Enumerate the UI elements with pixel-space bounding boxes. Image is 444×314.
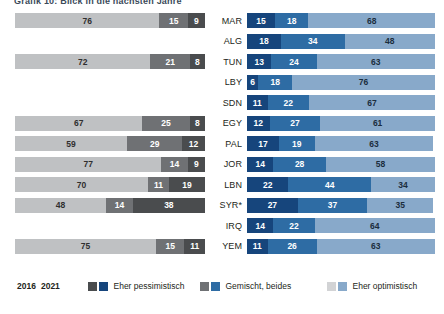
segment-pessimistisch-2016: 12	[182, 136, 205, 151]
page-title: Grafik 10: Blick in die nächsten Jahre	[14, 0, 254, 6]
segment-gemischt-2021: 26	[268, 239, 317, 254]
segment-pessimistisch-2021: 15	[247, 13, 275, 28]
segment-optimistisch-2021: 48	[345, 34, 435, 49]
bar-2021[interactable]: 142264	[247, 218, 435, 233]
segment-optimistisch-2016: 67	[15, 116, 142, 131]
bar-2016[interactable]: 751511	[15, 239, 205, 254]
segment-optimistisch-2021: 35	[367, 198, 433, 213]
bar-2016[interactable]: 72218	[15, 54, 205, 69]
chart-row: 76159MAR151868	[0, 13, 444, 34]
bar-2021[interactable]: 61876	[247, 75, 435, 90]
segment-optimistisch-2016: 75	[15, 239, 156, 254]
bar-2016[interactable]: 481438	[15, 198, 205, 213]
segment-pessimistisch-2021: 18	[247, 34, 281, 49]
bar-2021[interactable]: 122761	[247, 116, 435, 131]
segment-gemischt-2021: 24	[271, 54, 316, 69]
legend-swatch-pair	[327, 282, 347, 291]
segment-pessimistisch-2021: 17	[247, 136, 279, 151]
legend-label: Eher optimistisch	[351, 281, 418, 291]
legend-swatch-2016	[88, 282, 97, 291]
chart-row: 481438SYR*273735	[0, 198, 444, 219]
segment-optimistisch-2016: 70	[15, 177, 148, 192]
chart-row: SDN112267	[0, 95, 444, 116]
segment-optimistisch-2021: 58	[326, 157, 435, 172]
country-label-egy: EGY	[208, 116, 242, 131]
bar-2021[interactable]: 171963	[247, 136, 435, 151]
bar-2016[interactable]: 76159	[15, 13, 205, 28]
segment-pessimistisch-2016: 9	[188, 13, 205, 28]
chart-row: ALG183448	[0, 34, 444, 55]
country-label-tun: TUN	[208, 54, 242, 69]
segment-gemischt-2021: 27	[270, 116, 321, 131]
segment-optimistisch-2021: 64	[315, 218, 435, 233]
segment-optimistisch-2021: 63	[315, 136, 433, 151]
segment-gemischt-2016: 25	[142, 116, 190, 131]
bar-2021[interactable]: 151868	[247, 13, 435, 28]
bar-2021[interactable]: 142858	[247, 157, 435, 172]
bar-2021[interactable]: 112267	[247, 95, 435, 110]
legend-year-2021: 2021	[41, 281, 60, 291]
segment-pessimistisch-2021: 22	[247, 177, 288, 192]
legend-swatch-2021	[338, 282, 347, 291]
bar-2021[interactable]: 132463	[247, 54, 435, 69]
country-label-lbn: LBN	[208, 177, 242, 192]
legend-item-gemischt[interactable]: Gemischt, beides	[200, 279, 291, 293]
chart-row: 77149JOR142858	[0, 157, 444, 178]
segment-optimistisch-2016: 76	[15, 13, 159, 28]
segment-optimistisch-2016: 77	[15, 157, 161, 172]
segment-gemischt-2021: 22	[268, 95, 309, 110]
bar-2021[interactable]: 273735	[247, 198, 435, 213]
segment-pessimistisch-2016: 8	[190, 116, 205, 131]
legend-label: Gemischt, beides	[224, 281, 292, 291]
segment-gemischt-2016: 21	[150, 54, 190, 69]
country-label-sdn: SDN	[208, 95, 242, 110]
legend-year-2016: 2016	[17, 281, 36, 291]
legend-years: 2016 2021	[17, 279, 60, 293]
bar-2021[interactable]: 112663	[247, 239, 435, 254]
segment-optimistisch-2016: 59	[15, 136, 127, 151]
bar-2016[interactable]: 77149	[15, 157, 205, 172]
bar-2016[interactable]: 701119	[15, 177, 205, 192]
legend-swatch-2021	[99, 282, 108, 291]
legend-swatch-2016	[200, 282, 209, 291]
segment-gemischt-2016: 14	[161, 157, 188, 172]
legend-item-pessimistisch[interactable]: Eher pessimistisch	[88, 279, 184, 293]
country-label-mar: MAR	[208, 13, 242, 28]
chart-row: 701119LBN224434	[0, 177, 444, 198]
segment-gemischt-2021: 18	[275, 13, 309, 28]
segment-gemischt-2016: 14	[106, 198, 133, 213]
segment-pessimistisch-2021: 14	[247, 218, 273, 233]
segment-pessimistisch-2021: 11	[247, 95, 268, 110]
bar-2016[interactable]: 592912	[15, 136, 205, 151]
segment-gemischt-2021: 22	[273, 218, 314, 233]
chart-container: Grafik 10: Blick in die nächsten Jahre 7…	[0, 0, 444, 314]
segment-pessimistisch-2021: 11	[247, 239, 268, 254]
legend-item-optimistisch[interactable]: Eher optimistisch	[327, 279, 417, 293]
segment-pessimistisch-2016: 38	[133, 198, 205, 213]
legend-swatch-pair	[88, 282, 108, 291]
country-label-alg: ALG	[208, 34, 242, 49]
segment-optimistisch-2016: 72	[15, 54, 150, 69]
legend-swatch-2016	[327, 282, 336, 291]
segment-pessimistisch-2021: 12	[247, 116, 270, 131]
segment-gemischt-2016: 29	[127, 136, 182, 151]
bar-2021[interactable]: 224434	[247, 177, 435, 192]
country-label-jor: JOR	[208, 157, 242, 172]
chart-row: LBY61876	[0, 75, 444, 96]
segment-pessimistisch-2016: 19	[169, 177, 205, 192]
segment-optimistisch-2021: 68	[308, 13, 435, 28]
segment-gemischt-2021: 28	[273, 157, 326, 172]
segment-gemischt-2021: 34	[281, 34, 345, 49]
chart-rows: 76159MAR151868ALG18344872218TUN132463LBY…	[0, 13, 444, 259]
segment-pessimistisch-2016: 9	[188, 157, 205, 172]
bar-2021[interactable]: 183448	[247, 34, 435, 49]
segment-gemischt-2021: 44	[288, 177, 371, 192]
country-label-syr: SYR*	[208, 198, 242, 213]
segment-pessimistisch-2021: 27	[247, 198, 298, 213]
bar-2016[interactable]: 67258	[15, 116, 205, 131]
segment-gemischt-2021: 19	[279, 136, 315, 151]
segment-gemischt-2016: 15	[159, 13, 188, 28]
segment-optimistisch-2016: 48	[15, 198, 106, 213]
segment-pessimistisch-2021: 13	[247, 54, 271, 69]
segment-pessimistisch-2016: 11	[184, 239, 205, 254]
